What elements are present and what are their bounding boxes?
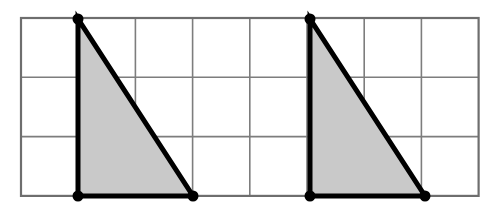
right-triangle-vertex-dot [305,14,316,25]
left-triangle-vertex-dot [73,191,84,202]
grid-figure-svg [0,0,496,216]
left-triangle-vertex-dot [188,191,199,202]
left-triangle-vertex-dot [73,14,84,25]
right-triangle-vertex-dot [420,191,431,202]
right-triangle-vertex-dot [305,191,316,202]
figure-canvas [0,0,496,216]
